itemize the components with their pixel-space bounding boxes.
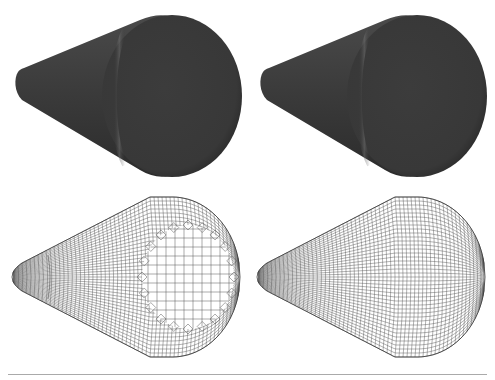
wireframe-cone-right [245,195,495,370]
wireframe-cone-left [0,195,250,370]
shaded-cone-right [245,0,495,195]
shaded-cone-left [0,0,250,195]
divider-line [8,374,487,375]
